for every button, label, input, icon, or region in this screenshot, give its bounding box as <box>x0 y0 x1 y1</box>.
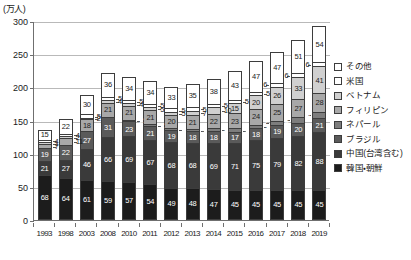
bar-segment-korea: 59 <box>101 181 115 220</box>
x-axis-tick-label: 2019 <box>311 229 325 239</box>
bar-segment-philippines: 27 <box>291 99 305 117</box>
y-axis-tick-label: 50 <box>18 184 28 193</box>
bar-column: 54641289218845 <box>312 21 326 220</box>
bar-column: 3454212236957 <box>122 21 136 220</box>
bar-segment-value: 18 <box>189 134 197 142</box>
legend-swatch-icon <box>334 121 342 129</box>
legend-item-2[interactable]: ベトナム <box>334 91 402 100</box>
legend-item-1[interactable]: 米国 <box>334 77 402 86</box>
bar-segment-korea: 45 <box>312 190 326 220</box>
y-axis-tick <box>30 221 34 222</box>
legend-item-5[interactable]: ブラジル <box>334 135 402 144</box>
bar-segment-china: 27 <box>59 160 73 178</box>
bar-segment-value: 54 <box>146 198 154 206</box>
bar-segment-korea: 57 <box>122 182 136 220</box>
bar-segment-brazil: 31 <box>101 117 115 138</box>
bar-segment-value: 26 <box>273 92 281 100</box>
bar-segment-value: 51 <box>294 53 302 61</box>
bar-segment-other: 34 <box>143 81 157 104</box>
bar-segment-philippines: 23 <box>228 113 242 128</box>
bar-segment-value: 64 <box>62 195 70 203</box>
bar-segment-value: 25 <box>273 109 281 117</box>
bar-segment-value: 88 <box>316 158 324 166</box>
bar-segment-value: 45 <box>316 201 324 209</box>
bar-segment-value: 31 <box>104 124 112 132</box>
bar-segment-value: 22 <box>62 149 70 157</box>
bar-segment-philippines: 21 <box>101 103 115 117</box>
bar-column: 47626257197945 <box>270 21 284 220</box>
bar-segment-other: 38 <box>207 79 221 104</box>
bar-segment-value: 6 <box>306 61 310 69</box>
bar-segment-value: 15 <box>41 131 49 139</box>
x-axis-tick <box>202 223 203 227</box>
bar-segment-value: 21 <box>189 119 197 127</box>
x-axis-tick-label: 2016 <box>248 229 262 239</box>
legend-label: その他 <box>346 62 372 71</box>
legend-item-4[interactable]: ネパール <box>334 120 402 129</box>
bar-segment-china: 88 <box>312 132 326 190</box>
bar-segment-value: 9 <box>306 112 310 120</box>
bar-segment-value: 45 <box>273 201 281 209</box>
bar-segment-value: 23 <box>231 118 239 126</box>
bar-segment-value: 21 <box>146 114 154 122</box>
bar-segment-value: 15 <box>231 105 239 113</box>
y-axis-tick-label: 200 <box>13 84 28 93</box>
bar-segment-value: 33 <box>294 85 302 93</box>
bar-segment-value: 17 <box>231 134 239 142</box>
bar-segment-value: 10 <box>224 107 232 115</box>
bar-segment-value: 68 <box>189 162 197 170</box>
bar-segment-china: 69 <box>122 136 136 182</box>
bar-segment-value: 8 <box>284 117 288 125</box>
bar-segment-value: 7 <box>55 143 59 151</box>
bar-segment-value: 46 <box>83 161 91 169</box>
x-axis-tick <box>266 223 267 227</box>
bar-segment-vietnam: 26 <box>270 87 284 104</box>
legend-item-0[interactable]: その他 <box>334 62 402 71</box>
bar-segment-vietnam: 33 <box>291 77 305 99</box>
bar-segment-value: 20 <box>252 99 260 107</box>
bar-segment-brazil: 18 <box>249 128 263 140</box>
bar-group: 1541719216822421122276430521827466136542… <box>34 21 330 220</box>
bar-segment-value: 47 <box>252 73 260 81</box>
bar-segment-korea: 45 <box>228 190 242 220</box>
x-axis-tick-label: 2011 <box>142 229 156 239</box>
bar-segment-china: 69 <box>207 143 221 189</box>
bar-segment-value: 5 <box>266 90 270 98</box>
x-axis-tick-label: 2017 <box>269 229 283 239</box>
bar-segment-china: 79 <box>270 138 284 190</box>
bar-segment-brazil: 19 <box>164 130 178 143</box>
bar-segment-value: 27 <box>62 165 70 173</box>
legend-swatch-icon <box>334 92 342 100</box>
legend-item-6[interactable]: 中国(台湾含む) <box>334 149 402 158</box>
bar-segment-value: 21 <box>125 109 133 117</box>
bar-segment-value: 66 <box>104 156 112 164</box>
y-axis-unit-label: (万人) <box>3 2 25 15</box>
bar-segment-philippines: 28 <box>312 93 326 112</box>
bar-segment-china: 71 <box>228 143 242 190</box>
bar-segment-value: 7 <box>263 120 267 128</box>
bar-segment-brazil: 23 <box>122 121 136 136</box>
bar-segment-vietnam: 41 <box>312 66 326 93</box>
legend-swatch-icon <box>334 106 342 114</box>
bar-segment-value: 35 <box>189 92 197 100</box>
bar-segment-value: 2 <box>139 117 143 125</box>
y-axis-tick-label: 100 <box>13 151 28 160</box>
bar-segment-value: 27 <box>294 105 302 113</box>
y-axis-tick-label: 0 <box>23 217 28 226</box>
bar-segment-korea: 49 <box>164 188 178 221</box>
bar-segment-value: 33 <box>168 94 176 102</box>
bar-segment-value: 30 <box>83 101 91 109</box>
bar-segment-value: 22 <box>62 123 70 131</box>
x-axis-tick <box>33 223 34 227</box>
bar-segment-value: 54 <box>316 41 324 49</box>
bar-segment-korea: 45 <box>249 190 263 220</box>
bar-segment-value: 36 <box>104 81 112 89</box>
bar-segment-value: 69 <box>210 163 218 171</box>
legend-item-3[interactable]: フィリピン <box>334 106 402 115</box>
bar-segment-value: 59 <box>104 197 112 205</box>
bar-segment-korea: 54 <box>143 184 157 220</box>
x-axis-tick-label: 2003 <box>79 229 93 239</box>
legend-item-7[interactable]: 韓国・朝鮮 <box>334 164 402 173</box>
x-axis-tick-label: 1993 <box>37 229 51 239</box>
bar-segment-value: 47 <box>210 201 218 209</box>
